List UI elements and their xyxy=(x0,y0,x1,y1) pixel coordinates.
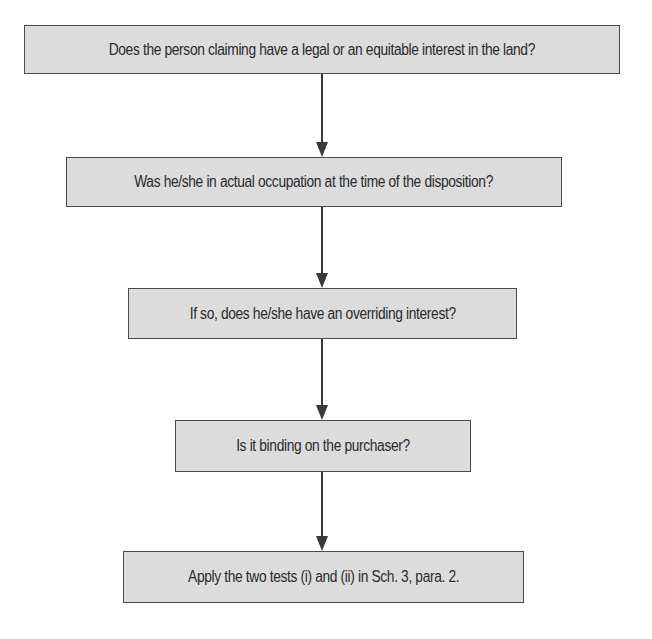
node-label: Was he/she in actual occupation at the t… xyxy=(135,173,494,191)
arrowhead-icon xyxy=(316,536,328,551)
flow-node-overriding-interest: If so, does he/she have an overriding in… xyxy=(128,288,517,339)
node-label: Apply the two tests (i) and (ii) in Sch.… xyxy=(188,568,459,586)
flow-node-apply-tests: Apply the two tests (i) and (ii) in Sch.… xyxy=(123,551,524,603)
node-label: Is it binding on the purchaser? xyxy=(236,437,410,455)
arrowhead-icon xyxy=(316,273,328,288)
flow-node-legal-interest: Does the person claiming have a legal or… xyxy=(24,25,620,74)
arrowhead-icon xyxy=(316,405,328,420)
node-label: Does the person claiming have a legal or… xyxy=(109,41,535,59)
node-label: If so, does he/she have an overriding in… xyxy=(189,305,455,323)
arrowhead-icon xyxy=(316,142,328,157)
flow-node-binding-on-purchaser: Is it binding on the purchaser? xyxy=(175,420,471,472)
flow-node-actual-occupation: Was he/she in actual occupation at the t… xyxy=(66,157,562,207)
